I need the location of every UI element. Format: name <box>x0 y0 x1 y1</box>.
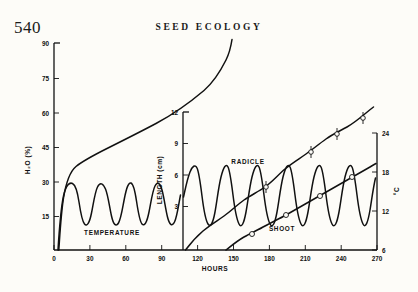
left-tick-90: 90 <box>42 40 50 47</box>
shoot-point <box>250 232 255 237</box>
shoot-point <box>350 175 355 180</box>
left-tick-15: 15 <box>42 213 50 220</box>
chart-svg: 90 75 60 45 30 15 H₂O (%) 12 9 6 3 LENGT… <box>0 0 418 292</box>
radicle-point <box>264 181 269 193</box>
x-tick-90: 90 <box>158 255 166 262</box>
x-axis-label: HOURS <box>202 265 228 272</box>
temperature-curve-left <box>58 183 181 250</box>
x-tick-180: 180 <box>264 255 275 262</box>
radicle-point <box>309 146 314 158</box>
figure-panel: 540 SEED ECOLOGY 90 75 60 45 30 15 H₂O (… <box>0 0 418 292</box>
radicle-error-markers <box>264 112 366 193</box>
shoot-point <box>318 194 323 199</box>
series-label-shoot: SHOOT <box>269 225 295 232</box>
mid-tick-9: 9 <box>174 140 178 147</box>
left-tick-30: 30 <box>42 179 50 186</box>
x-tick-120: 120 <box>192 255 203 262</box>
right-tick-12: 12 <box>382 208 390 215</box>
x-tick-0: 0 <box>52 255 56 262</box>
x-tick-150: 150 <box>228 255 239 262</box>
x-tick-60: 60 <box>122 255 130 262</box>
right-tick-24: 24 <box>382 130 390 137</box>
left-tick-75: 75 <box>42 75 50 82</box>
x-tick-30: 30 <box>86 255 94 262</box>
left-axis-label: H₂O (%) <box>24 146 32 174</box>
right-axis-label: °C <box>393 187 400 195</box>
x-tick-240: 240 <box>336 255 347 262</box>
radicle-point <box>335 128 340 140</box>
mid-axis: 12 9 6 3 LENGTH (cm) <box>156 109 189 251</box>
bottom-axis: 0 30 60 90 120 150 180 210 240 270 HOURS <box>52 245 383 272</box>
series-label-radicle: RADICLE <box>231 158 264 165</box>
mid-axis-label: LENGTH (cm) <box>156 156 164 204</box>
x-tick-210: 210 <box>300 255 311 262</box>
mid-tick-6: 6 <box>174 172 178 179</box>
right-axis: 24 18 12 6 °C <box>372 130 400 254</box>
series-label-temperature: TEMPERATURE <box>84 229 140 236</box>
left-axis: 90 75 60 45 30 15 H₂O (%) <box>24 40 60 251</box>
right-tick-6: 6 <box>382 247 386 254</box>
shoot-point <box>284 213 289 218</box>
x-tick-270: 270 <box>372 255 383 262</box>
left-tick-60: 60 <box>42 110 50 117</box>
right-tick-18: 18 <box>382 169 390 176</box>
left-tick-45: 45 <box>42 144 50 151</box>
